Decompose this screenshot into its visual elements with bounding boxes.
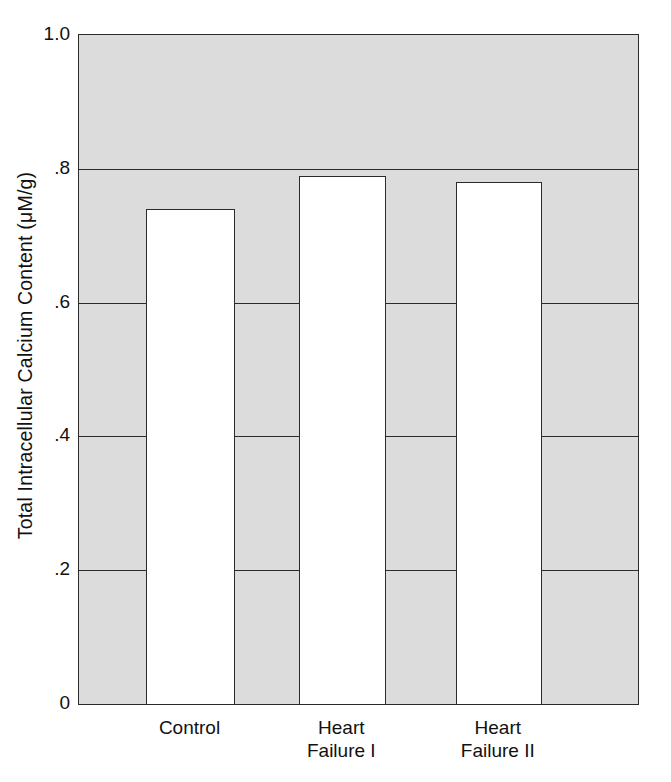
x-tick-label: Heart Failure II [408, 716, 588, 762]
y-axis-title-text: Total Intracellular Calcium Content (μM/… [15, 171, 38, 539]
y-tick-label: .6 [8, 292, 78, 311]
gridline [79, 169, 638, 170]
y-tick-label: .4 [8, 425, 78, 444]
bar [456, 182, 542, 704]
bar [299, 176, 386, 705]
y-tick-label: .8 [8, 158, 78, 177]
y-tick-label: 1.0 [8, 24, 78, 43]
y-axis-title: Total Intracellular Calcium Content (μM/… [0, 0, 52, 710]
plot-area [78, 34, 639, 705]
bar-chart-figure: Total Intracellular Calcium Content (μM/… [0, 0, 671, 782]
x-tick-label: Heart Failure I [251, 716, 431, 762]
bar [146, 209, 235, 704]
y-tick-label: 0 [8, 693, 78, 712]
y-tick-label: .2 [8, 559, 78, 578]
